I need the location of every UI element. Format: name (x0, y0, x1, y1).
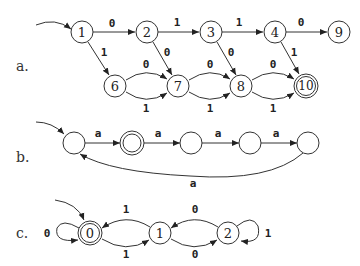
edge-label: 1 (143, 102, 150, 115)
svg-text:0: 0 (86, 226, 94, 241)
edge-label: 1 (123, 248, 130, 261)
state-1: 1 (71, 21, 93, 43)
edge-7-8-bottom (189, 92, 230, 99)
start-arrow (36, 22, 71, 29)
state-b3 (180, 132, 202, 154)
svg-text:6: 6 (111, 79, 119, 94)
loop-2 (237, 220, 259, 241)
edge-2-1 (171, 220, 218, 228)
state-6: 6 (104, 75, 126, 97)
state-b5 (297, 132, 319, 154)
diagram-c-label: c. (16, 225, 28, 241)
state-7: 7 (167, 75, 189, 97)
state-2: 2 (136, 21, 158, 43)
diagram-b: b. a a a a a (16, 122, 319, 190)
diagram-a: a. 0 1 1 0 1 0 0 1 0 1 0 1 0 1 1 (16, 16, 350, 115)
edge-6-7-bottom (126, 92, 167, 99)
state-10-accepting: 10 (294, 74, 318, 98)
state-b4 (239, 132, 261, 154)
diagram-c: c. 0 1 1 0 0 1 0 1 2 (16, 200, 272, 261)
edge-label: 0 (44, 227, 51, 240)
svg-text:9: 9 (335, 25, 343, 40)
edge-6-7-top (126, 73, 167, 80)
state-4: 4 (264, 21, 286, 43)
edge-0-1 (102, 239, 149, 247)
edge-label: 1 (174, 16, 181, 29)
state-9: 9 (328, 21, 350, 43)
edge-8-10-bottom (252, 92, 294, 99)
edge-b-5-1 (80, 153, 303, 177)
edge-label: 0 (192, 203, 199, 216)
svg-text:4: 4 (271, 25, 279, 40)
svg-text:3: 3 (207, 25, 215, 40)
edge-label: 0 (270, 58, 277, 71)
edge-1-2 (171, 239, 217, 247)
edge-7-8-top (189, 73, 230, 80)
edge-label: a (273, 127, 280, 140)
edge-label: 1 (207, 102, 214, 115)
edge-label: a (155, 127, 162, 140)
state-b2-accepting (120, 131, 144, 155)
svg-text:7: 7 (174, 79, 182, 94)
state-b1 (63, 132, 85, 154)
edge-label: a (215, 127, 222, 140)
svg-text:8: 8 (237, 79, 245, 94)
svg-text:2: 2 (143, 25, 151, 40)
edge-label: 1 (270, 102, 277, 115)
state-8: 8 (230, 75, 252, 97)
state-c0-accepting: 0 (78, 221, 102, 245)
edge-label: 1 (265, 227, 272, 240)
automata-figure: a. 0 1 1 0 1 0 0 1 0 1 0 1 0 1 1 (0, 0, 360, 266)
edge-label: 0 (192, 248, 199, 261)
edge-label: 0 (109, 17, 116, 30)
diagram-a-label: a. (16, 58, 29, 74)
state-c1: 1 (149, 222, 171, 244)
edge-label: 0 (143, 58, 150, 71)
svg-text:1: 1 (156, 226, 164, 241)
edge-label: a (95, 127, 102, 140)
edge-label: 1 (236, 16, 243, 29)
edge-label: 1 (291, 46, 298, 59)
edge-label: 0 (207, 58, 214, 71)
edge-label: a (190, 177, 197, 190)
state-c2: 2 (217, 222, 239, 244)
svg-text:10: 10 (298, 79, 313, 93)
edge-label: 1 (123, 203, 130, 216)
svg-text:1: 1 (78, 25, 86, 40)
svg-text:2: 2 (224, 226, 232, 241)
edge-label: 0 (164, 46, 171, 59)
start-arrow (55, 200, 84, 220)
edge-1-0 (102, 220, 150, 228)
loop-0 (57, 223, 79, 241)
edge-8-10-top (252, 73, 294, 80)
start-arrow (36, 122, 64, 134)
diagram-b-label: b. (16, 149, 29, 165)
state-3: 3 (200, 21, 222, 43)
edge-label: 0 (228, 46, 235, 59)
edge-label: 0 (298, 16, 305, 29)
edge-label: 1 (101, 46, 108, 59)
